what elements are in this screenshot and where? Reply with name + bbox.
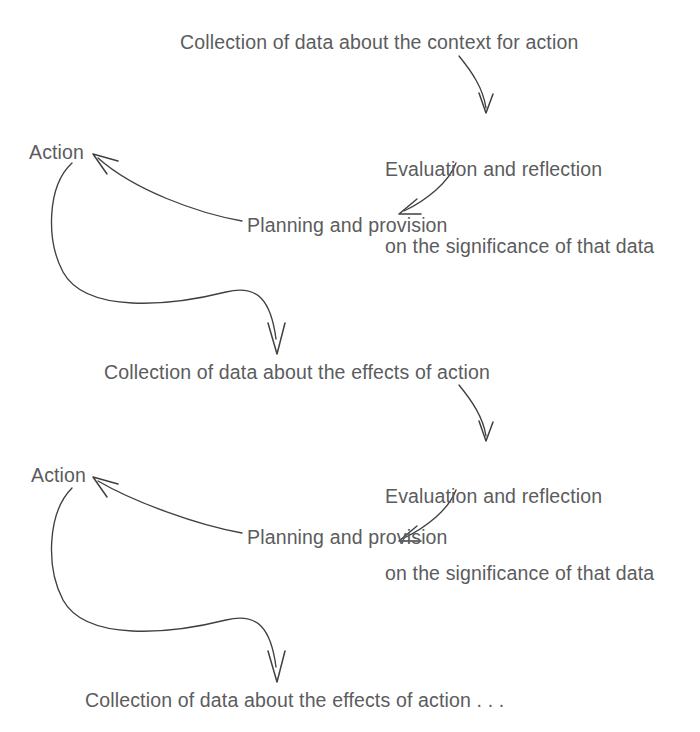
arrow-planning-to-action-2 [93,477,242,533]
arrow-context-to-evaluation-1 [459,56,493,113]
node-evaluation-reflection-2-line1: Evaluation and reflection [385,484,654,510]
node-evaluation-reflection-1-line1: Evaluation and reflection [385,157,654,183]
arrow-action-to-collection-effects-2 [52,488,285,682]
node-evaluation-reflection-2-line2: on the significance of that data [385,561,654,587]
node-evaluation-reflection-1: Evaluation and reflection on the signifi… [385,106,654,310]
node-action-1: Action [29,140,84,165]
arrow-action-to-collection-effects-1 [52,163,285,354]
node-planning-provision-2: Planning and provision [247,525,448,550]
diagram-canvas: Collection of data about the context for… [0,0,700,732]
node-action-2: Action [31,463,86,488]
node-planning-provision-1: Planning and provision [247,213,448,238]
node-collection-context: Collection of data about the context for… [180,30,578,55]
node-collection-effects-1: Collection of data about the effects of … [104,360,490,385]
node-collection-effects-2: Collection of data about the effects of … [85,688,504,713]
arrow-planning-to-action-1 [93,154,242,221]
